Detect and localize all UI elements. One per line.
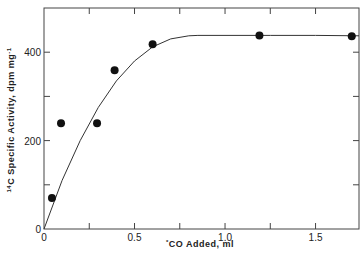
data-point (255, 31, 263, 39)
data-point (348, 32, 356, 40)
x-tick-label: 0 (41, 232, 47, 243)
tick-labels: 00.51.01.50200400 (24, 47, 323, 243)
y-tick-label: 400 (24, 47, 41, 58)
chart: 00.51.01.50200400 *CO Added, ml 14C Spec… (0, 0, 364, 254)
data-point (93, 119, 101, 127)
axis-ticks (44, 8, 359, 229)
data-points (48, 31, 356, 202)
plot-frame (44, 8, 359, 229)
y-axis-label: 14C Specific Activity, dpm mg-1 (6, 47, 16, 192)
y-tick-label: 200 (24, 136, 41, 147)
x-axis-label: *CO Added, ml (166, 239, 234, 249)
data-point (149, 40, 157, 48)
data-point (111, 66, 119, 74)
y-tick-label: 0 (35, 224, 41, 235)
x-tick-label: 0.5 (128, 232, 142, 243)
x-tick-label: 1.5 (309, 232, 323, 243)
data-point (57, 119, 65, 127)
fitted-curve (44, 35, 359, 229)
data-point (48, 194, 56, 202)
